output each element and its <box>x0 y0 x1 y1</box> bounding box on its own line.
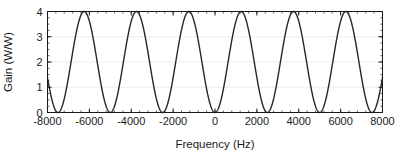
y-tick-label: 4 <box>36 6 42 18</box>
x-tick-label: 4000 <box>287 115 311 127</box>
x-axis-title: Frequency (Hz) <box>175 138 254 150</box>
y-tick-label: 2 <box>36 56 42 68</box>
x-tick-label: -4000 <box>117 115 145 127</box>
x-tick-label: 2000 <box>245 115 269 127</box>
x-tick-label: 0 <box>212 115 218 127</box>
y-axis-title: Gain (W/W) <box>2 32 14 92</box>
chart-figure: -8000-6000-4000-200002000400060008000 01… <box>0 0 399 154</box>
x-tick-label: 8000 <box>370 115 394 127</box>
y-axis-tick-labels: 01234 <box>36 6 42 119</box>
y-tick-label: 1 <box>36 81 42 93</box>
x-tick-label: -6000 <box>75 115 103 127</box>
x-axis-tick-labels: -8000-6000-4000-200002000400060008000 <box>33 115 394 127</box>
y-tick-label: 3 <box>36 31 42 43</box>
y-tick-label: 0 <box>36 107 42 119</box>
gain-vs-frequency-chart: -8000-6000-4000-200002000400060008000 01… <box>0 0 399 154</box>
x-tick-label: -2000 <box>159 115 187 127</box>
x-tick-label: 6000 <box>328 115 352 127</box>
